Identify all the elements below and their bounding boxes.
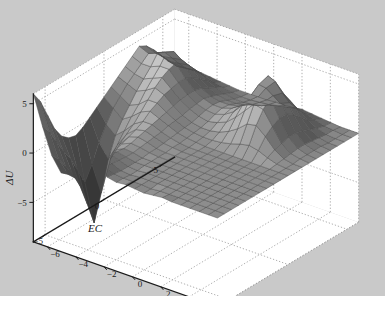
z-tick-label: 0	[22, 148, 27, 158]
x-tick-label: 2	[166, 289, 171, 296]
y-tick-label: 0	[95, 201, 100, 211]
y-tick-label: −5	[33, 236, 43, 246]
plot-area: −6−4−20246−505−505EECΔU	[0, 0, 385, 296]
x-tick-label: −2	[107, 269, 117, 279]
x-tick-label: −6	[50, 249, 60, 259]
y-tick-label: 5	[154, 165, 159, 175]
surface-plot-svg: −6−4−20246−505−505EECΔU	[0, 0, 385, 296]
z-tick-label: −5	[17, 198, 27, 208]
figure-background: −6−4−20246−505−505EECΔU	[0, 0, 385, 296]
x-tick-label: −4	[79, 259, 89, 269]
x-axis-label: E	[138, 294, 146, 296]
z-tick-label: 5	[22, 99, 27, 109]
y-axis-label: EC	[87, 222, 103, 234]
x-tick-label: 0	[138, 279, 143, 289]
z-axis-label: ΔU	[3, 170, 15, 186]
